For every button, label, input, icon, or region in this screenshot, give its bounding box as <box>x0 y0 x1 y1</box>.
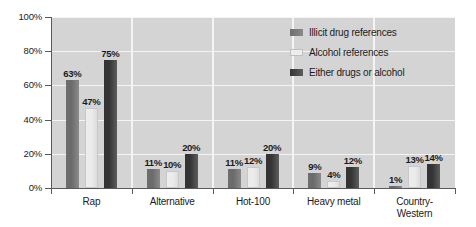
bar-value-label: 63% <box>58 68 87 79</box>
y-axis-tick-label: 60% <box>0 79 42 90</box>
bar-value-label: 4% <box>319 169 348 180</box>
bar <box>185 154 198 188</box>
x-axis-category-label: Heavy metal <box>293 196 374 208</box>
bar-value-label: 20% <box>177 142 206 153</box>
y-axis-tick <box>45 120 51 121</box>
chart-legend: Illicit drug referencesAlcohol reference… <box>290 24 404 84</box>
bar-value-label: 14% <box>419 152 448 163</box>
legend-swatch-icon <box>290 29 303 36</box>
bar-value-label: 12% <box>239 155 268 166</box>
x-axis-tick <box>213 189 214 194</box>
bar <box>346 167 359 188</box>
x-axis-category-line: Alternative <box>132 196 213 208</box>
bar <box>166 171 179 188</box>
bar <box>408 166 421 188</box>
legend-label: Either drugs or alcohol <box>309 67 404 78</box>
bar <box>266 154 279 188</box>
bar-value-label: 1% <box>381 174 410 185</box>
x-axis-tick <box>374 189 375 194</box>
legend-swatch-icon <box>290 49 303 56</box>
x-axis-category-line: Hot-100 <box>213 196 294 208</box>
x-axis-category-line: Country- <box>374 196 455 208</box>
y-axis-line <box>51 17 52 189</box>
bar <box>327 181 340 188</box>
bar-value-label: 47% <box>77 96 106 107</box>
y-axis-tick <box>45 17 51 18</box>
bar <box>147 169 160 188</box>
y-axis-tick-label: 40% <box>0 114 42 125</box>
y-axis-tick <box>45 51 51 52</box>
x-axis-category-label: Rap <box>51 196 132 208</box>
x-axis-category-line: Rap <box>51 196 132 208</box>
x-axis-category-label: Country-Western <box>374 196 455 219</box>
x-axis-tick <box>132 189 133 194</box>
x-axis-category-line: Heavy metal <box>293 196 374 208</box>
bar <box>228 169 241 188</box>
gridline <box>51 17 455 18</box>
bar-value-label: 12% <box>338 155 367 166</box>
bar-chart: 63%47%75%11%10%20%11%12%20%9%4%12%1%13%1… <box>0 0 476 227</box>
y-axis-tick-label: 20% <box>0 148 42 159</box>
x-axis-category-label: Alternative <box>132 196 213 208</box>
legend-label: Alcohol references <box>309 47 388 58</box>
y-axis-tick-label: 80% <box>0 45 42 56</box>
group-separator <box>131 17 133 188</box>
x-axis-tick <box>293 189 294 194</box>
legend-item: Either drugs or alcohol <box>290 64 404 81</box>
bar-value-label: 10% <box>158 159 187 170</box>
y-axis-tick <box>45 85 51 86</box>
x-axis-category-line: Western <box>374 208 455 220</box>
x-axis-tick <box>51 189 52 194</box>
y-axis-tick-label: 100% <box>0 11 42 22</box>
x-axis-line <box>51 188 456 189</box>
x-axis-end-tick <box>455 189 456 194</box>
legend-label: Illicit drug references <box>309 27 397 38</box>
legend-swatch-icon <box>290 69 303 76</box>
x-axis-category-label: Hot-100 <box>213 196 294 208</box>
bar <box>104 60 117 188</box>
legend-item: Alcohol references <box>290 44 404 61</box>
bar <box>427 164 440 188</box>
y-axis-tick-label: 0% <box>0 182 42 193</box>
bar-value-label: 75% <box>96 48 125 59</box>
bar <box>85 108 98 188</box>
group-separator <box>212 17 214 188</box>
legend-item: Illicit drug references <box>290 24 404 41</box>
y-axis-tick <box>45 154 51 155</box>
bar-value-label: 20% <box>258 142 287 153</box>
bar <box>247 167 260 188</box>
